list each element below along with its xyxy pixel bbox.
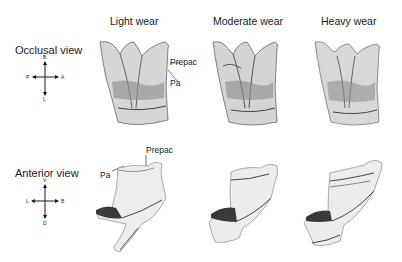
tooth-anterior-moderate-wear: [205, 158, 290, 253]
compass-left-label: P: [26, 74, 29, 80]
compass-top-label: V: [43, 177, 46, 183]
tooth-occlusal-moderate-wear: [211, 38, 283, 126]
compass-right-label: B: [61, 198, 64, 204]
compass-top-label: B: [43, 54, 46, 60]
orientation-compass-occlusal: B L P A: [20, 55, 70, 105]
tooth-anterior-heavy-wear: [298, 155, 393, 255]
row-label-anterior-view: Anterior view: [15, 167, 79, 179]
compass-right-label: A: [61, 74, 64, 80]
annotation-prepac-occlusal: Prepac: [170, 57, 197, 67]
tooth-anterior-light-wear: [92, 158, 187, 253]
column-header-moderate-wear: Moderate wear: [213, 15, 283, 27]
annotation-pa-occlusal: Pa: [170, 78, 180, 88]
column-header-light-wear: Light wear: [110, 15, 158, 27]
tooth-occlusal-light-wear: [98, 38, 173, 126]
compass-left-label: L: [26, 198, 29, 204]
compass-bottom-label: L: [43, 96, 46, 102]
column-header-heavy-wear: Heavy wear: [321, 15, 376, 27]
tooth-occlusal-heavy-wear: [313, 38, 383, 126]
annotation-prepac-anterior: Prepac: [146, 145, 173, 155]
compass-bottom-label: D: [43, 220, 47, 226]
orientation-compass-anterior: V D L B: [20, 180, 70, 230]
